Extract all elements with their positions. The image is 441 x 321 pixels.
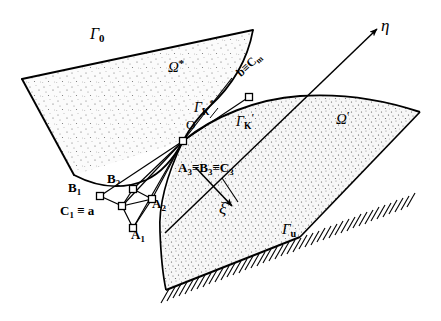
label-origin: O [186,118,195,131]
label-triple-point: A3≡B3≡C3 [178,161,234,177]
label-a1: A1 [131,228,145,244]
node-O [180,138,187,145]
node-center [119,203,126,210]
domain-omega-prime [160,95,420,303]
label-omega-star: Ω* [168,58,184,75]
label-gamma-0: Γ0 [90,26,105,44]
figure-root: Γ0 Ω* Ω′ ΓK* ΓK′ Γu O η ξ b≡Cm C1 ≡ a A1… [0,0,441,321]
label-gamma-k-prime: ΓK′ [236,113,254,131]
label-gamma-u: Γu [282,222,296,239]
label-b1: B1 [68,181,81,197]
node-Cm [246,94,253,101]
label-a2: A2 [152,197,166,213]
label-xi-axis: ξ [219,200,226,217]
label-gamma-k-star: ΓK* [194,99,214,117]
label-omega-prime: Ω′ [336,110,350,127]
label-c1-equiv-a: C1 ≡ a [60,204,94,220]
label-eta-axis: η [381,17,389,34]
node-B2 [130,186,137,193]
label-b2: B2 [107,172,120,188]
node-B1 [97,193,104,200]
